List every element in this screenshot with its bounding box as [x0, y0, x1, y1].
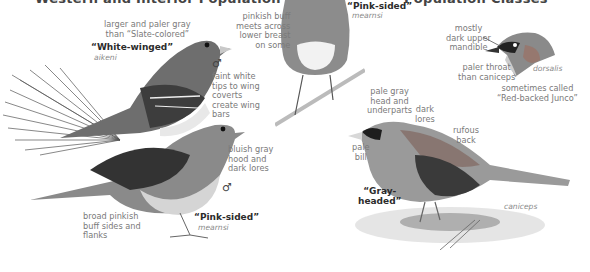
male-symbol-icon: ♂ [222, 182, 232, 193]
dorsalis-throat-note: paler throat than caniceps [458, 63, 515, 82]
right-section-heading: Population Classes [404, 0, 548, 6]
pink-sided-breast-note: pinkish buff meets across lower breast o… [236, 12, 290, 50]
pink-sided-front-name: “Pink-sided” [347, 1, 412, 11]
gray-headed-bill-note: pale bill [352, 143, 370, 162]
dorsalis-alias-note: sometimes called “Red-backed Junco” [497, 84, 578, 103]
pink-sided-scientific: mearnsi [198, 223, 229, 232]
dorsalis-scientific: dorsalis [533, 64, 562, 73]
pink-sided-front-scientific: mearnsi [352, 11, 383, 20]
gray-headed-head-note: pale gray head and underparts [367, 87, 412, 116]
mandible-pointer-line [482, 36, 502, 48]
gray-headed-back-note: rufous back [453, 126, 479, 145]
pink-sided-flanks-note: broad pinkish buff sides and flanks [83, 212, 141, 241]
male-symbol-icon: ♂ [212, 58, 222, 69]
white-winged-size-note: larger and paler gray than “Slate-colore… [104, 20, 191, 39]
gray-headed-scientific: caniceps [504, 202, 537, 211]
white-winged-wing-note: faint white tips to wing coverts create … [212, 72, 260, 120]
white-winged-name: “White-winged” [91, 42, 173, 52]
white-winged-scientific: aikeni [94, 53, 117, 62]
pink-sided-hood-note: bluish gray hood and dark lores [228, 145, 273, 174]
gray-headed-name: “Gray- headed” [358, 186, 402, 206]
pink-sided-name: “Pink-sided” [194, 212, 259, 222]
gray-headed-lores-note: dark lores [415, 105, 435, 124]
